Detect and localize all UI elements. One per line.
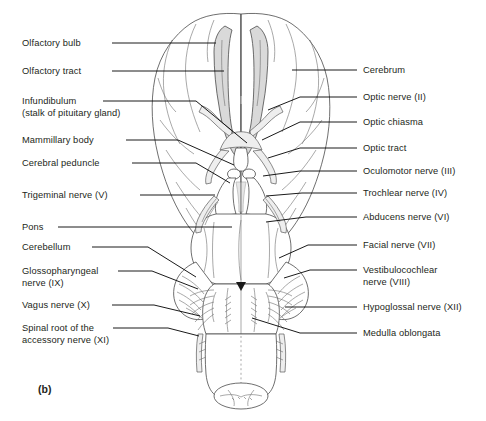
label-glossopharyngeal-sub: nerve (IX) [22, 278, 64, 290]
leader-line-spinal-root [113, 328, 199, 336]
label-trochlear-nerve: Trochlear nerve (IV) [363, 188, 447, 200]
label-olfactory-bulb: Olfactory bulb [22, 38, 81, 50]
label-medulla-oblongata: Medulla oblongata [363, 328, 441, 340]
label-hypoglossal-nerve: Hypoglossal nerve (XII) [363, 302, 462, 314]
leader-line-cerebellum [92, 247, 196, 277]
label-vestibulocochlear: Vestibulocochlear [363, 265, 437, 277]
label-abducens-nerve: Abducens nerve (VI) [363, 212, 450, 224]
cerebral-peduncles [215, 178, 266, 216]
label-infundibulum-sub: (stalk of pituitary gland) [22, 108, 121, 120]
medulla-oblongata [203, 282, 280, 334]
label-cerebellum: Cerebellum [22, 242, 70, 254]
brain-inferior-view-figure: Olfactory bulbOlfactory tractInfundibulu… [0, 0, 486, 421]
label-facial-nerve: Facial nerve (VII) [363, 240, 435, 252]
label-oculomotor-nerve: Oculomotor nerve (III) [363, 166, 455, 178]
label-mammillary-body: Mammillary body [22, 135, 94, 147]
label-pons: Pons [22, 222, 44, 234]
label-cerebrum: Cerebrum [363, 65, 405, 77]
label-infundibulum: Infundibulum [22, 96, 76, 108]
label-optic-tract: Optic tract [363, 143, 406, 155]
panel-letter: (b) [38, 383, 51, 395]
label-optic-nerve: Optic nerve (II) [363, 92, 426, 104]
label-olfactory-tract: Olfactory tract [22, 66, 81, 78]
label-vestibulocochlear-sub: nerve (VIII) [363, 277, 410, 289]
spinal-cord [205, 334, 277, 409]
label-spinal-root-sub: accessory nerve (XI) [22, 335, 109, 347]
label-cerebral-peduncle: Cerebral peduncle [22, 158, 100, 170]
label-vagus-nerve: Vagus nerve (X) [22, 300, 90, 312]
label-trigeminal-nerve: Trigeminal nerve (V) [22, 190, 108, 202]
label-spinal-root: Spinal root of the [22, 323, 94, 335]
brain-illustration [0, 0, 486, 421]
label-glossopharyngeal: Glossopharyngeal [22, 266, 98, 278]
pons [191, 214, 291, 284]
label-optic-chiasma: Optic chiasma [363, 117, 423, 129]
